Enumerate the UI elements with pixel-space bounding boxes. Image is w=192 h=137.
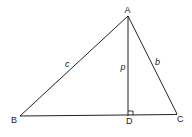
vertex-label-c: C (177, 114, 184, 124)
side-label-b: b (155, 57, 160, 67)
vertex-label-a: A (125, 5, 131, 15)
vertex-label-d: D (126, 116, 133, 126)
side-c (20, 16, 128, 116)
side-b (128, 16, 177, 114)
vertex-label-b: B (11, 115, 17, 125)
side-label-p: p (120, 62, 126, 72)
side-base (20, 115, 177, 117)
side-label-c: c (65, 59, 70, 69)
triangle-diagram: A B D C c p b (0, 0, 192, 137)
